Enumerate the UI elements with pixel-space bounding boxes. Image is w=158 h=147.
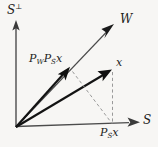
vector-label-x: x	[116, 57, 122, 68]
pw-ps-x-vector	[16, 67, 70, 127]
s-axis	[16, 118, 140, 127]
vector-label-pw-ps-x: PWPSx	[29, 53, 62, 64]
projection-diagram-figure: S⊥ W S x PWPSx PSx	[0, 0, 158, 147]
psx-arg: x	[112, 126, 118, 139]
pwpsx-sub-w: W	[36, 57, 43, 66]
point-label-ps-x: PSx	[100, 127, 118, 138]
perp-symbol: ⊥	[15, 2, 22, 11]
x-vector	[16, 70, 112, 128]
axis-label-s-perp: S⊥	[7, 4, 22, 16]
s-perp-axis	[12, 20, 19, 127]
axis-label-s: S	[143, 114, 151, 126]
diagram-canvas	[0, 0, 158, 147]
pwpsx-p2: P	[44, 52, 51, 65]
ray-label-w: W	[120, 13, 132, 25]
axis-label-s-perp-base: S	[7, 3, 15, 17]
pwpsx-arg: x	[56, 52, 62, 65]
pwpsx-to-psx-dashed-line	[73, 72, 113, 124]
